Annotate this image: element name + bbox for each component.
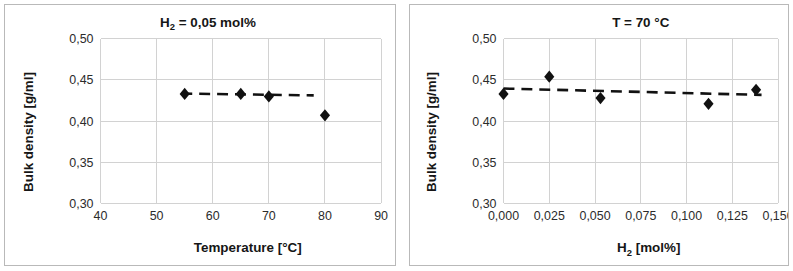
trendline xyxy=(504,89,762,95)
y-tick-label: 0,45 xyxy=(69,73,93,87)
y-tick-label: 0,35 xyxy=(472,156,496,170)
y-tick-label: 0,50 xyxy=(472,32,496,46)
data-point-marker xyxy=(320,109,330,121)
x-tick-label: 0,050 xyxy=(579,209,610,223)
data-point-marker xyxy=(180,88,190,100)
scatter-chart-hydrogen: T = 70 °C0,300,350,400,450,500,0000,0250… xyxy=(410,5,788,265)
x-tick-label: 80 xyxy=(318,209,332,223)
x-tick-label: 0,075 xyxy=(625,209,656,223)
data-point-marker xyxy=(236,88,246,100)
y-tick-label: 0,35 xyxy=(69,156,93,170)
x-tick-label: 40 xyxy=(94,209,108,223)
x-tick-label: 90 xyxy=(374,209,388,223)
x-tick-label: 0,100 xyxy=(671,209,702,223)
chart-title-text: T = 70 °C xyxy=(612,15,670,30)
gridlines xyxy=(101,39,382,204)
y-tick-label: 0,50 xyxy=(69,32,93,46)
y-tick-label: 0,45 xyxy=(472,73,496,87)
x-tick-label: 0,150 xyxy=(763,209,788,223)
figure-container: H2 = 0,05 mol%0,300,350,400,450,50405060… xyxy=(0,0,793,271)
data-point-marker xyxy=(264,90,274,102)
chart-title-text: H2 = 0,05 mol% xyxy=(160,15,256,32)
x-tick-label: 0,000 xyxy=(488,209,519,223)
chart-title: H2 = 0,05 mol% xyxy=(160,15,256,32)
x-axis-ticks: 405060708090 xyxy=(94,209,388,223)
x-axis-ticks: 0,0000,0250,0500,0750,1000,1250,150 xyxy=(488,209,788,223)
x-axis-title: H2 [mol%] xyxy=(617,240,680,257)
x-tick-label: 50 xyxy=(150,209,164,223)
y-tick-label: 0,30 xyxy=(69,197,93,211)
y-axis-title: Bulk density [g/ml] xyxy=(21,72,36,192)
x-tick-label: 70 xyxy=(262,209,276,223)
y-axis-ticks: 0,300,350,400,450,50 xyxy=(472,32,496,211)
x-tick-label: 60 xyxy=(206,209,220,223)
data-point-marker xyxy=(703,98,713,110)
data-point-marker xyxy=(595,92,605,104)
x-axis-title: Temperature [°C] xyxy=(194,240,302,255)
scatter-chart-temperature: H2 = 0,05 mol%0,300,350,400,450,50405060… xyxy=(5,5,395,265)
x-tick-label: 0,025 xyxy=(534,209,565,223)
y-axis-ticks: 0,300,350,400,450,50 xyxy=(69,32,93,211)
data-point-marker xyxy=(544,70,554,82)
y-axis-title: Bulk density [g/ml] xyxy=(424,72,439,192)
trendline xyxy=(181,94,313,96)
chart-panel-temperature: H2 = 0,05 mol%0,300,350,400,450,50405060… xyxy=(4,4,396,266)
chart-panel-hydrogen: T = 70 °C0,300,350,400,450,500,0000,0250… xyxy=(409,4,789,266)
y-tick-label: 0,40 xyxy=(472,115,496,129)
data-markers xyxy=(498,70,761,109)
gridlines xyxy=(504,39,779,204)
x-tick-label: 0,125 xyxy=(717,209,748,223)
y-tick-label: 0,40 xyxy=(69,115,93,129)
chart-title: T = 70 °C xyxy=(612,15,670,30)
